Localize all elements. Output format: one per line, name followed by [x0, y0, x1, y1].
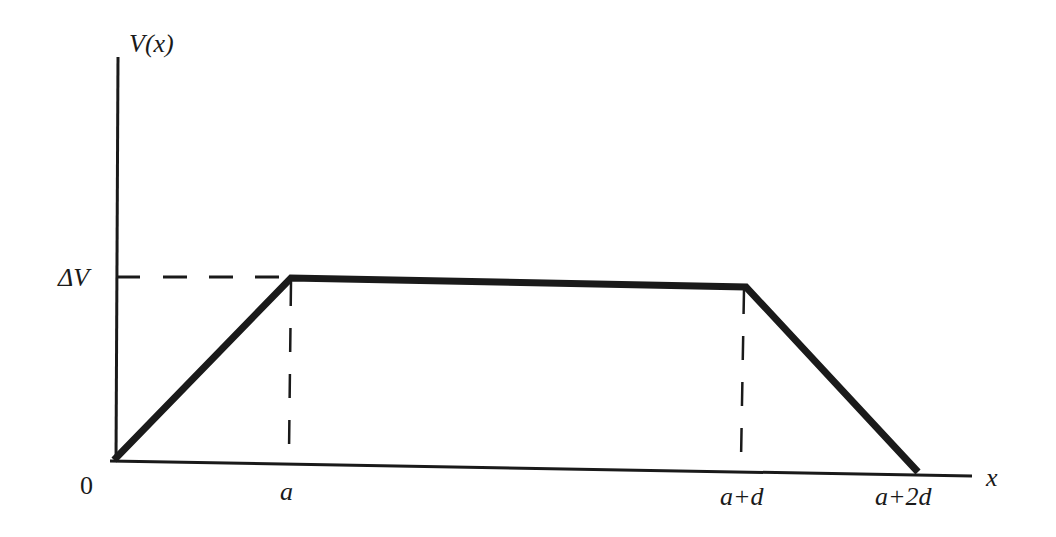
- x-axis-label: x: [985, 463, 998, 492]
- x-tick-a-plus-d: a+d: [720, 482, 765, 511]
- y-axis-label: V(x): [129, 29, 174, 58]
- a-plus-d-dashed-guide: [741, 290, 744, 460]
- x-tick-a-plus-2d: a+2d: [875, 482, 933, 511]
- delta-v-label: ΔV: [57, 263, 92, 292]
- x-axis: [110, 461, 972, 476]
- y-axis: [116, 57, 118, 462]
- x-tick-a: a: [280, 477, 293, 506]
- a-dashed-guide: [289, 282, 291, 452]
- origin-label: 0: [80, 471, 93, 500]
- potential-curve: [114, 278, 918, 472]
- potential-diagram: V(x) ΔV 0 a a+d a+2d x: [0, 0, 1056, 537]
